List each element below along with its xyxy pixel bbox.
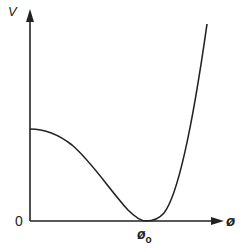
minimum-label-subscript: o xyxy=(146,234,152,245)
origin-label: 0 xyxy=(15,213,23,229)
x-axis xyxy=(30,217,224,225)
minimum-tick-label: øo xyxy=(137,226,152,245)
potential-curve xyxy=(30,24,207,221)
y-axis-label: V xyxy=(8,4,17,19)
x-axis-arrow-icon xyxy=(211,217,224,225)
x-axis-label: ø xyxy=(226,212,235,229)
y-axis-arrow-icon xyxy=(26,9,34,22)
y-axis xyxy=(26,9,34,221)
minimum-label-main: ø xyxy=(137,226,146,242)
chart-canvas xyxy=(0,0,245,252)
